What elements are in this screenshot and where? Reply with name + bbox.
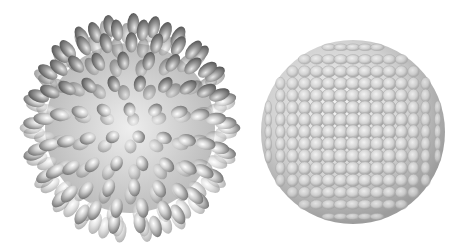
- spiky-ellipsoid-sphere: [20, 13, 241, 243]
- packed-ellipsoid-sphere: [261, 40, 445, 224]
- scene-canvas: [0, 0, 461, 247]
